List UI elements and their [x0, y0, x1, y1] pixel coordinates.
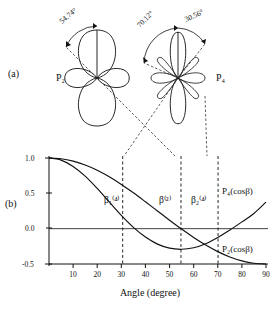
p2-angle-arc — [66, 26, 97, 47]
connector-p4-to-beta1 — [124, 78, 178, 156]
annotation-beta-2: β⁽²⁾ — [159, 195, 171, 205]
polar-plot-p4: 70.12° 30.56° P₄ — [135, 7, 226, 123]
p2-lobe-right — [97, 68, 129, 87]
y-tick-label-4: -0.5 — [22, 260, 34, 269]
p2-angle-ray — [66, 47, 97, 78]
connector-p4-to-beta2 — [205, 96, 207, 156]
p4-lobe-left — [151, 73, 178, 83]
annotation-beta2-4: β₂⁽⁴⁾ — [191, 195, 206, 205]
figure-root: (a) (b) 54.74° — [0, 0, 275, 309]
p4-angle-label-right: 30.56° — [183, 7, 205, 24]
connector-p2-to-beta2 — [97, 78, 175, 156]
annotation-beta1-4: β₁⁽⁴⁾ — [104, 195, 119, 205]
x-tick-label-40: 40 — [142, 270, 150, 279]
p2-plot-label: P₂ — [56, 72, 65, 83]
series-label-p4: P₄(cosβ) — [222, 186, 253, 196]
x-ticks: 10 20 30 40 50 60 70 80 90 — [69, 264, 270, 279]
p4-angle-arc-right — [178, 28, 205, 44]
figure-canvas: 54.74° P₂ — [0, 0, 275, 309]
p2-lobe-left — [65, 68, 97, 87]
x-tick-label-30: 30 — [118, 270, 126, 279]
x-tick-label-10: 10 — [69, 270, 77, 279]
p4-lobe-right — [178, 73, 205, 83]
x-tick-label-50: 50 — [166, 270, 174, 279]
line-chart: 1.0 0.5 0.0 -0.5 10 20 30 40 50 — [22, 154, 270, 299]
y-tick-label-3: 0.0 — [25, 224, 35, 233]
polar-plot-p2: 54.74° P₂ — [56, 6, 129, 126]
y-tick-label-2: 0.5 — [25, 189, 35, 198]
x-tick-label-20: 20 — [93, 270, 101, 279]
panel-connectors — [97, 78, 207, 156]
p4-angle-label-left: 70.12° — [135, 9, 155, 30]
x-tick-label-80: 80 — [238, 270, 246, 279]
p2-arc-arrow-top — [93, 23, 97, 29]
p2-lobe-down — [78, 78, 115, 126]
x-tick-label-70: 70 — [214, 270, 222, 279]
p4-lobe-down — [170, 78, 185, 124]
x-tick-label-90: 90 — [262, 270, 270, 279]
curve-p4 — [49, 158, 266, 249]
y-tick-label-1: 1.0 — [25, 154, 35, 163]
x-tick-label-60: 60 — [190, 270, 198, 279]
p2-angle-label: 54.74° — [58, 6, 79, 26]
p4-plot-label: P₄ — [216, 72, 226, 83]
series-label-p2: P₂(cosβ) — [222, 244, 253, 254]
p4-arc-left-arrow-top — [174, 25, 178, 31]
x-axis-title: Angle (degree) — [120, 287, 180, 299]
y-ticks: 1.0 0.5 0.0 -0.5 — [22, 154, 52, 269]
polar-panel: 54.74° P₂ — [56, 6, 226, 156]
